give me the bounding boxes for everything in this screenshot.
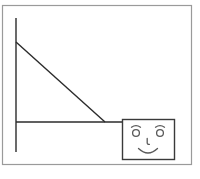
diagonal-hypotenuse-line [16, 42, 105, 122]
line-drawing-svg [0, 0, 200, 179]
drawing-canvas: Simple black-and-white line drawing: an … [0, 0, 200, 179]
